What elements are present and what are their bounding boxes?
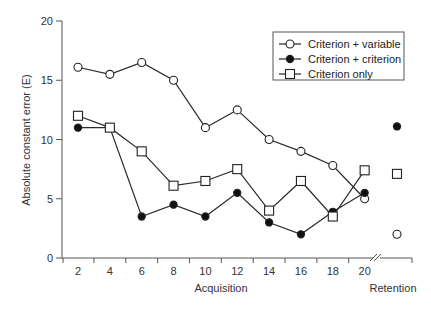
data-point-open-circle [233,106,241,114]
data-point-square [360,166,369,175]
data-point-open-circle [106,70,114,78]
series-line-2 [78,116,365,217]
y-tick-label: 0 [47,252,53,264]
series-line-0 [78,62,365,198]
chart: 051015202468101214161820 Absolute consta… [0,0,431,312]
data-point-filled-circle [170,201,177,208]
data-point-square [233,165,242,174]
data-point-open-circle [329,162,337,170]
series-0-points [74,58,401,238]
x-tick-label: 2 [75,265,81,277]
y-tick-label: 5 [47,193,53,205]
x-tick-label: 8 [170,265,176,277]
x-axis-title-retention: Retention [369,282,416,294]
legend-label: Criterion only [308,68,373,80]
data-point-square [169,181,178,190]
y-axis-title: Absolute constant error (E) [20,74,32,205]
data-point-open-circle [265,136,273,144]
legend-marker [286,70,295,79]
data-point-filled-circle [297,231,304,238]
legend-label: Criterion + criterion [308,53,401,65]
data-point-square [265,206,274,215]
retention-point [393,169,402,178]
legend: Criterion + variableCriterion + criterio… [273,32,404,80]
x-tick-label: 10 [199,265,211,277]
data-point-square [105,123,114,132]
data-point-filled-circle [361,189,368,196]
data-point-filled-circle [74,124,81,131]
data-point-open-circle [74,63,82,71]
x-tick-label: 6 [139,265,145,277]
axis-break-mark [374,254,381,261]
x-tick-label: 14 [263,265,275,277]
y-tick-label: 10 [41,134,53,146]
x-tick-label: 4 [107,265,113,277]
data-point-filled-circle [202,213,209,220]
retention-point [393,230,401,238]
data-point-square [296,176,305,185]
data-point-open-circle [170,76,178,84]
data-point-filled-circle [266,219,273,226]
data-point-open-circle [297,147,305,155]
data-point-open-circle [201,124,209,132]
y-tick-label: 20 [41,15,53,27]
x-tick-label: 20 [359,265,371,277]
data-point-filled-circle [138,213,145,220]
y-tick-label: 15 [41,74,53,86]
legend-marker [286,55,293,62]
legend-marker [286,40,294,48]
x-tick-label: 18 [327,265,339,277]
data-point-square [328,212,337,221]
data-point-filled-circle [234,189,241,196]
data-point-square [201,176,210,185]
data-point-square [74,111,83,120]
x-tick-label: 16 [295,265,307,277]
series-layer [74,58,402,238]
series-2-points [74,111,402,221]
series-1-points [74,123,400,238]
series-line-1 [78,128,365,235]
retention-point [393,123,400,130]
legend-label: Criterion + variable [308,38,401,50]
x-axis-title: Acquisition [194,282,247,294]
x-tick-label: 12 [231,265,243,277]
data-point-open-circle [138,58,146,66]
data-point-square [137,147,146,156]
